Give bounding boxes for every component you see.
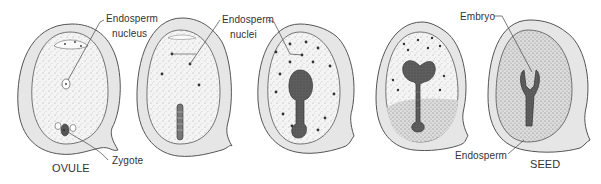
ovule-stage [18,24,120,154]
seed-stage [488,20,590,152]
label-endosperm-nucleus-2: nucleus [112,28,147,40]
seed-development-diagram: Endosperm nucleus Endosperm nuclei Zygot… [0,0,601,184]
filament-embryo [177,104,183,140]
heart-stage [376,22,468,151]
globular-stage [258,24,354,153]
label-zygote: Zygote [112,155,143,167]
label-endosperm: Endosperm [455,150,507,162]
zygote [61,124,69,136]
label-endosperm-nuclei-1: Endosperm [222,14,274,26]
label-embryo: Embryo [460,11,495,23]
label-endosperm-nucleus-1: Endosperm [106,13,158,25]
caption-ovule: OVULE [52,162,90,174]
diagram-canvas [0,0,601,184]
caption-seed: SEED [530,158,560,170]
two-cell-stage [137,18,232,156]
label-endosperm-nuclei-2: nuclei [230,29,257,41]
